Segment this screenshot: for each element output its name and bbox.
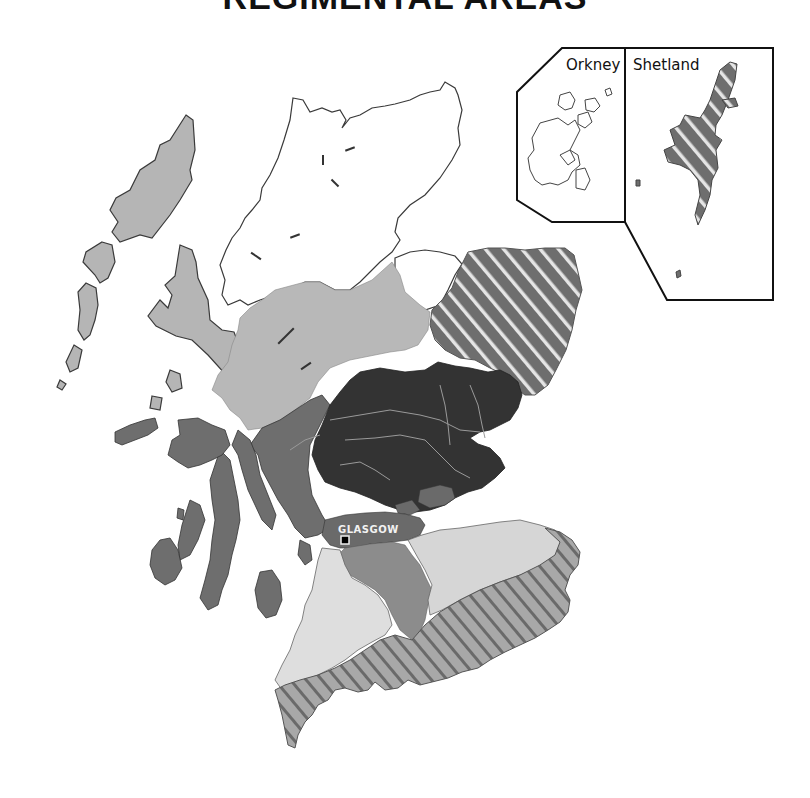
- glasgow-marker-icon: [341, 536, 349, 544]
- region-western-isles: [57, 115, 244, 410]
- region-tayside-fife: [312, 362, 522, 512]
- region-far-north: [220, 82, 462, 310]
- orkney-label: Orkney: [566, 56, 620, 74]
- region-argyll-west: [115, 395, 330, 618]
- shetland-label: Shetland: [633, 56, 700, 74]
- scotland-map: GLASGOW Orkney Shetland: [0, 0, 810, 798]
- glasgow-label: GLASGOW: [338, 524, 399, 535]
- inset-orkney: Orkney: [528, 56, 620, 190]
- inset-shetland: Shetland: [633, 56, 738, 278]
